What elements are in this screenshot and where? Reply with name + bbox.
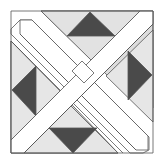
- quilt-block-diagram: [0, 0, 167, 157]
